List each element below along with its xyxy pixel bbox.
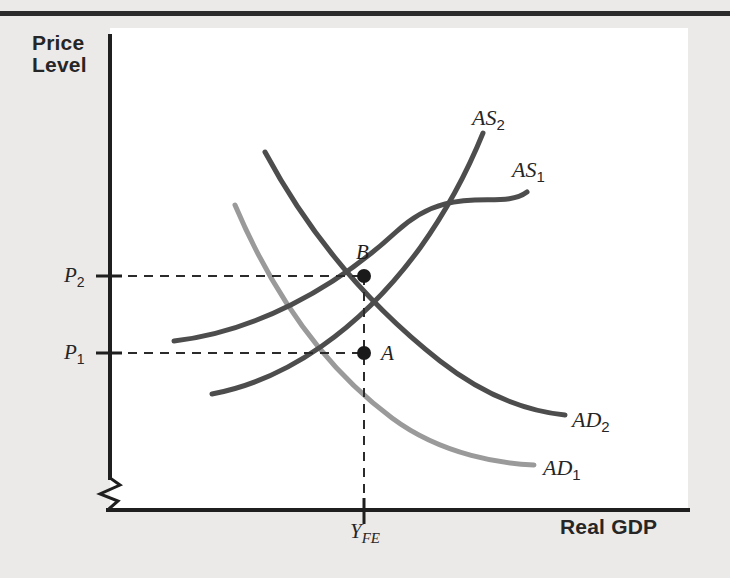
curve-label-ad2: AD2 [572, 407, 610, 435]
x-axis-title: Real GDP [560, 516, 657, 538]
x-tick-yfe-base: Y [350, 519, 362, 543]
curve-label-ad2-sub: 2 [601, 418, 609, 435]
equilibrium-label-a: A [381, 341, 394, 366]
curve-label-as2: AS2 [472, 105, 505, 133]
y-axis-title-line1: Price [32, 32, 87, 54]
y-tick-p2-base: P [64, 263, 77, 287]
curve-label-as1-sub: 1 [536, 168, 544, 185]
curve-label-ad1: AD1 [543, 455, 581, 483]
curve-label-as1: AS1 [512, 157, 545, 185]
curve-label-ad1-sub: 1 [572, 466, 580, 483]
curve-label-ad1-base: AD [543, 455, 572, 480]
diagram-canvas: Price Level Real GDP P2 P1 YFE AS2 AS1 A… [0, 0, 730, 578]
equilibrium-point-b [357, 269, 371, 283]
equilibrium-label-b: B [356, 240, 369, 265]
y-tick-p1-base: P [64, 340, 77, 364]
curve-label-as2-sub: 2 [496, 116, 504, 133]
x-tick-yfe-sub: FE [362, 530, 380, 546]
curve-label-as2-base: AS [472, 105, 496, 130]
y-axis-tick-label-p1: P1 [64, 340, 85, 367]
x-axis-tick-label-yfe: YFE [350, 519, 380, 547]
equilibrium-point-a [357, 346, 371, 360]
y-axis-tick-label-p2: P2 [64, 263, 85, 290]
axes-layer [0, 0, 730, 578]
y-axis-title-line2: Level [32, 54, 87, 76]
y-axis-title: Price Level [32, 32, 87, 76]
curve-label-as1-base: AS [512, 157, 536, 182]
axis-break-icon [100, 478, 120, 508]
y-tick-p2-sub: 2 [77, 274, 85, 290]
y-tick-p1-sub: 1 [77, 351, 85, 367]
curve-label-ad2-base: AD [572, 407, 601, 432]
